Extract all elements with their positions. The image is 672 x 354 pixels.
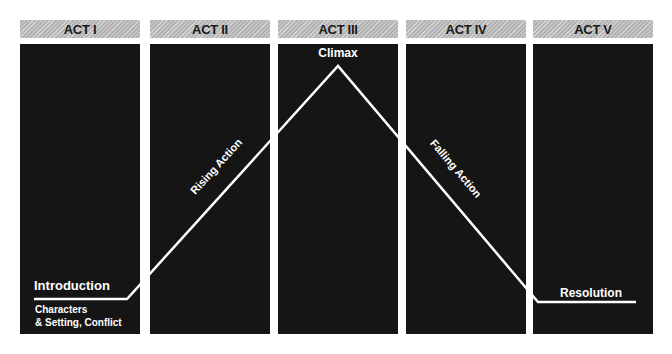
rising-action-label: Rising Action [188,136,244,196]
resolution-label: Resolution [560,286,622,300]
falling-action-label: Falling Action [428,137,484,200]
climax-label: Climax [318,46,358,60]
introduction-label: Introduction [34,278,110,293]
plot-line [34,66,636,302]
introduction-detail-1: Characters [35,304,88,315]
plot-diagram: Introduction Characters & Setting, Confl… [0,0,672,354]
introduction-detail-2: & Setting, Conflict [35,317,122,328]
